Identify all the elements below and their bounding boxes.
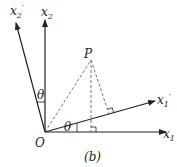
panel-label: (b) — [84, 150, 101, 164]
origin-label: O — [35, 136, 45, 150]
rotated-axes-diagram: P O θ θ (b) x1 x2 x1′ x2′ — [0, 0, 177, 167]
theta-label-bottom: θ — [64, 120, 72, 134]
x2-prime-label: x2′ — [10, 3, 24, 20]
p-to-x1p-dashed — [91, 60, 109, 114]
point-p-label: P — [83, 47, 93, 61]
right-angle-x1p — [108, 108, 114, 113]
theta-label-left: θ — [37, 88, 45, 102]
x1-prime-label: x1′ — [157, 92, 171, 109]
x2-label: x2 — [41, 5, 53, 21]
diagram-canvas: P O θ θ (b) x1 x2 x1′ x2′ — [0, 0, 177, 167]
right-angle-x1 — [91, 127, 96, 132]
x1-label: x1 — [163, 127, 175, 143]
x2-prime-axis — [16, 23, 45, 132]
